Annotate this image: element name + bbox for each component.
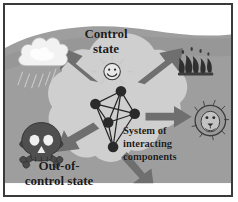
label-layer: Control state Out-of- control state Syst… [5,5,233,197]
label-out-of-control-state: Out-of- control state [7,159,111,188]
label-control-state: Control state [63,27,149,56]
figure-root: Control state Out-of- control state Syst… [0,0,238,202]
label-system-of-interacting-components: System of interacting components [123,125,209,163]
figure-frame: Control state Out-of- control state Syst… [3,3,233,197]
